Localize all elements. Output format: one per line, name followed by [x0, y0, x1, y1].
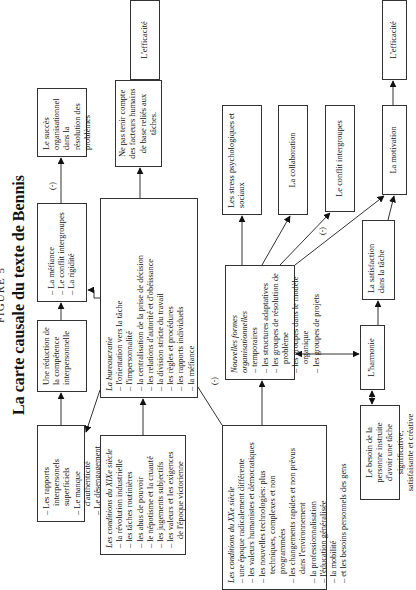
- node-nouvelles: Nouvelles formes organisationnelles temp…: [225, 265, 295, 380]
- edge-label-neg: (-): [48, 182, 57, 190]
- node-succes: Le succès organisationnel dans la résolu…: [37, 88, 87, 157]
- node-conflit: Le conflit intergroupes: [325, 105, 355, 212]
- node-collaboration: La collaboration: [278, 105, 308, 215]
- node-reduction: Une réduction de la compétence interpers…: [37, 320, 87, 392]
- node-mefiance: La méfiance Le conflit intergroupes La r…: [37, 203, 87, 302]
- edge-satisfaction-motivation: [388, 196, 394, 220]
- node-besoin: Le besoin de la personne instruite d'avo…: [360, 405, 400, 500]
- node-xx: Les conditions du XXe siècle une époque …: [222, 425, 327, 590]
- edge-nouvelles-collaboration: [262, 216, 290, 265]
- node-motivation: La motivation: [382, 105, 407, 195]
- edge-bureaucratie-rapports: [86, 390, 100, 432]
- node-xix: Les conditions du XIXe siècle la révolut…: [100, 435, 186, 555]
- node-satisfaction: La satisfaction dans la tâche: [362, 220, 395, 300]
- edge-bureaucratie-mefiance: [88, 290, 100, 298]
- node-stress: Les stress psychologiques et sociaux: [222, 105, 262, 215]
- node-efficacite-2: L'efficacité: [382, 0, 407, 80]
- node-rapports: Les rapports interpersonels superficiels…: [37, 425, 85, 522]
- node-ne-pas-tenir: Ne pas tenir compte des facteurs humains…: [115, 80, 162, 167]
- edge-label-neg: (-): [210, 377, 219, 385]
- node-harmonie: L'harmonie: [360, 325, 385, 390]
- node-efficacite-1: L'efficacité: [130, 0, 160, 80]
- edge-label-neg: (-): [318, 227, 327, 235]
- node-bureaucratie: La bureaucratie l'orientation vers la tâ…: [100, 198, 198, 398]
